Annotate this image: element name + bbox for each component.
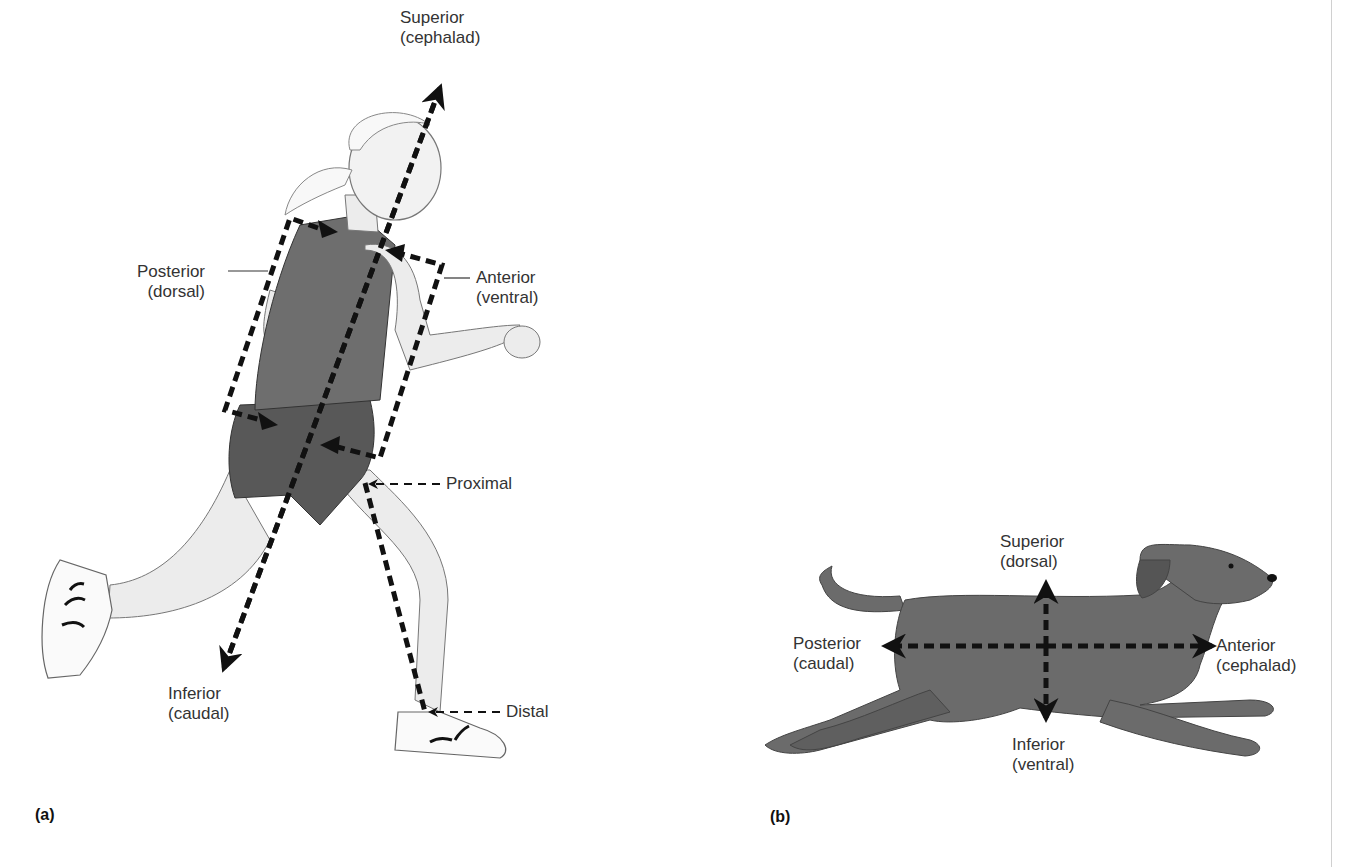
dog-tail [820, 566, 905, 612]
label-anterior-b: Anterior (cephalad) [1216, 636, 1296, 676]
runner-figure [42, 113, 540, 758]
label-inferior-a: Inferior (caudal) [168, 684, 229, 724]
label-distal: Distal [506, 702, 549, 722]
label-posterior-b: Posterior (caudal) [793, 634, 861, 674]
label-anterior-a: Anterior (ventral) [476, 268, 538, 308]
label-proximal: Proximal [446, 474, 512, 494]
front-shoe [395, 712, 506, 758]
label-posterior-a: Posterior (dorsal) [137, 262, 205, 302]
illustration-canvas [0, 0, 1357, 867]
back-shoe [42, 560, 112, 678]
label-superior-a: Superior (cephalad) [400, 8, 480, 48]
page-gutter-line [1331, 0, 1332, 867]
panel-tag-b: (b) [770, 808, 790, 826]
label-superior-b: Superior (dorsal) [1000, 532, 1064, 572]
panel-tag-a: (a) [35, 806, 55, 824]
ponytail [285, 168, 352, 215]
label-inferior-b: Inferior (ventral) [1012, 735, 1074, 775]
